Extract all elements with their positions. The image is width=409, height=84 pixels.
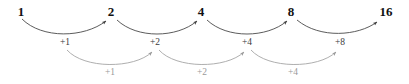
top-edge-label-1: +1 — [60, 38, 70, 48]
top-edge-label-4: +8 — [335, 38, 345, 48]
node-label-2: 2 — [108, 5, 115, 18]
bottom-arc-group — [67, 50, 336, 65]
bottom-edge-label-1: +1 — [105, 68, 115, 78]
top-arc-8-to-16 — [297, 20, 377, 33]
node-label-16: 16 — [380, 5, 393, 18]
node-label-1: 1 — [18, 5, 25, 18]
node-label-4: 4 — [198, 5, 205, 18]
doubling-sequence-diagram: 1 2 4 8 16 +1 +2 +4 +8 +1 +2 +4 — [0, 0, 409, 84]
top-edge-label-2: +2 — [150, 38, 160, 48]
bottom-arc-1-to-2 — [67, 50, 152, 65]
bottom-arc-4-to-8 — [251, 50, 336, 65]
bottom-edge-label-2: +2 — [197, 68, 207, 78]
bottom-edge-label-3: +4 — [288, 68, 298, 78]
top-arc-1-to-2 — [22, 19, 106, 34]
node-label-8: 8 — [288, 5, 295, 18]
top-arc-4-to-8 — [207, 20, 287, 34]
top-arc-group — [22, 19, 377, 34]
bottom-arc-2-to-4 — [159, 50, 244, 65]
top-arc-2-to-4 — [117, 20, 197, 34]
top-edge-label-3: +4 — [242, 38, 252, 48]
